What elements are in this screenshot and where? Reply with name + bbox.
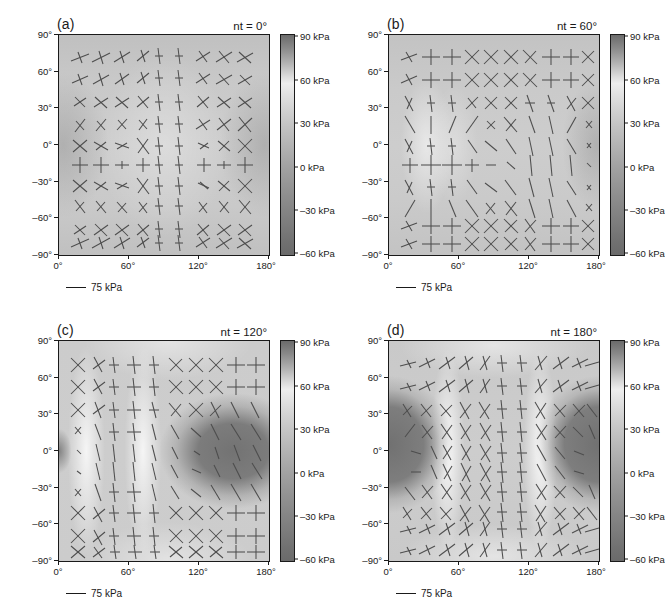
panel-d-cbar-tick-3 xyxy=(624,472,628,473)
panel-a-cbar-tick-1 xyxy=(294,79,298,80)
scalebar-line-icon xyxy=(66,593,86,594)
panel-d: (d) nt = 180° xyxy=(330,306,660,611)
panel-d-xtick-1: 60° xyxy=(451,566,465,577)
panel-a-ytick-6: –90° xyxy=(10,249,52,260)
panel-c-plot-area xyxy=(58,340,270,562)
panel-a-ytick-2: 30° xyxy=(10,102,52,113)
panel-b-xtick-0: 0° xyxy=(383,260,392,271)
panel-c-ytick-2: 30° xyxy=(10,408,52,419)
panel-a-scalebar: 75 kPa xyxy=(66,282,122,293)
panel-a-cbar-label-2: 30 kPa xyxy=(300,118,330,129)
panel-c-cbar-tick-2 xyxy=(294,429,298,430)
panel-b-ytick-4: –30° xyxy=(340,175,382,186)
panel-a-xtick-mark-0 xyxy=(58,255,59,259)
panel-a-ytick-mark-5 xyxy=(54,217,58,218)
panel-d-ytick-5: –60° xyxy=(340,518,382,529)
panel-a-field xyxy=(59,35,269,255)
panel-c-ytick-mark-2 xyxy=(54,413,58,414)
panel-c-cbar-label-3: 0 kPa xyxy=(300,467,324,478)
panel-d-ytick-0: 90° xyxy=(340,335,382,346)
panel-d-scalebar-label: 75 kPa xyxy=(421,588,452,599)
panel-d-xtick-0: 0° xyxy=(383,566,392,577)
panel-c-scalebar: 75 kPa xyxy=(66,588,122,599)
panel-c-xtick-1: 60° xyxy=(121,566,135,577)
panel-b-ytick-5: –60° xyxy=(340,212,382,223)
panel-c-cbar-label-2: 30 kPa xyxy=(300,424,330,435)
panel-a-xtick-2: 120° xyxy=(188,260,208,271)
panel-a-xtick-mark-1 xyxy=(128,255,129,259)
panel-c-cbar-label-1: 60 kPa xyxy=(300,380,330,391)
panel-c-cbar-tick-1 xyxy=(294,385,298,386)
panel-a-plot-area xyxy=(58,34,270,256)
panel-b-ytick-3: 0° xyxy=(340,139,382,150)
panel-b-field xyxy=(389,35,599,255)
panel-a-ytick-mark-2 xyxy=(54,107,58,108)
panel-c-cbar-tick-3 xyxy=(294,472,298,473)
panel-a-ytick-4: –30° xyxy=(10,175,52,186)
panel-c-xtick-0: 0° xyxy=(53,566,62,577)
panel-a-cbar-tick-0 xyxy=(294,36,298,37)
panel-d-cbar-tick-0 xyxy=(624,342,628,343)
panel-c-ytick-mark-4 xyxy=(54,487,58,488)
panel-b-colorbar: 90 kPa 60 kPa 30 kPa 0 kPa –30 kPa –60 k… xyxy=(610,34,660,254)
panel-d-colorbar-gradient xyxy=(610,340,625,562)
panel-c-ytick-1: 60° xyxy=(10,371,52,382)
panel-c-ytick-mark-3 xyxy=(54,450,58,451)
panel-b-xtick-mark-0 xyxy=(388,255,389,259)
panel-b-cbar-tick-4 xyxy=(624,210,628,211)
panel-a-ytick-1: 60° xyxy=(10,65,52,76)
panel-b-xtick-3: 180° xyxy=(586,260,606,271)
panel-d-cbar-tick-1 xyxy=(624,385,628,386)
panel-c-xtick-2: 120° xyxy=(188,566,208,577)
panel-a-xtick-1: 60° xyxy=(121,260,135,271)
panel-a-nt-label: nt = 0° xyxy=(233,20,267,32)
panel-b-cbar-tick-5 xyxy=(624,253,628,254)
panel-b-ytick-1: 60° xyxy=(340,65,382,76)
panel-a-ytick-5: –60° xyxy=(10,212,52,223)
panel-b-scalebar-label: 75 kPa xyxy=(421,282,452,293)
panel-b-ytick-mark-3 xyxy=(384,144,388,145)
panel-d-ytick-3: 0° xyxy=(340,445,382,456)
panel-c-cbar-tick-0 xyxy=(294,342,298,343)
panel-a-ytick-mark-4 xyxy=(54,181,58,182)
panel-c-xtick-mark-2 xyxy=(198,561,199,565)
panel-b-cbar-label-3: 0 kPa xyxy=(630,161,654,172)
panel-a-cbar-tick-3 xyxy=(294,166,298,167)
panel-d-xtick-mark-0 xyxy=(388,561,389,565)
panel-d-ytick-1: 60° xyxy=(340,371,382,382)
panel-c-tag: (c) xyxy=(57,322,74,338)
panel-d-xtick-3: 180° xyxy=(586,566,606,577)
panel-d-tag: (d) xyxy=(387,322,405,338)
panel-c-colorbar-gradient xyxy=(280,340,295,562)
panel-d-ytick-mark-2 xyxy=(384,413,388,414)
panel-b-xtick-2: 120° xyxy=(518,260,538,271)
panel-b-cbar-label-1: 60 kPa xyxy=(630,74,660,85)
panel-d-cbar-tick-4 xyxy=(624,516,628,517)
panel-d-ytick-mark-1 xyxy=(384,377,388,378)
panel-c-ytick-0: 90° xyxy=(10,335,52,346)
panel-b-cbar-tick-0 xyxy=(624,36,628,37)
panel-b-ytick-mark-1 xyxy=(384,71,388,72)
panel-a-xtick-mark-3 xyxy=(268,255,269,259)
panel-b-ytick-mark-5 xyxy=(384,217,388,218)
panel-d-cbar-tick-2 xyxy=(624,429,628,430)
panel-d-cbar-label-0: 90 kPa xyxy=(630,337,660,348)
panel-c-ytick-mark-1 xyxy=(54,377,58,378)
panel-b-xtick-mark-3 xyxy=(598,255,599,259)
panel-d-cbar-tick-5 xyxy=(624,559,628,560)
panel-d-cbar-label-5: –60 kPa xyxy=(630,554,665,565)
panel-a-cbar-label-0: 90 kPa xyxy=(300,31,330,42)
panel-c-xtick-mark-3 xyxy=(268,561,269,565)
panel-a-ytick-mark-0 xyxy=(54,34,58,35)
panel-b-ytick-0: 90° xyxy=(340,29,382,40)
panel-a-cbar-tick-2 xyxy=(294,123,298,124)
panel-a-colorbar-gradient xyxy=(280,34,295,256)
scalebar-line-icon xyxy=(66,287,86,288)
panel-c-scalebar-label: 75 kPa xyxy=(91,588,122,599)
panel-d-cbar-label-3: 0 kPa xyxy=(630,467,654,478)
panel-d-xtick-mark-3 xyxy=(598,561,599,565)
panel-d-cbar-label-2: 30 kPa xyxy=(630,424,660,435)
panel-d-ytick-mark-5 xyxy=(384,523,388,524)
panel-c-xtick-mark-0 xyxy=(58,561,59,565)
